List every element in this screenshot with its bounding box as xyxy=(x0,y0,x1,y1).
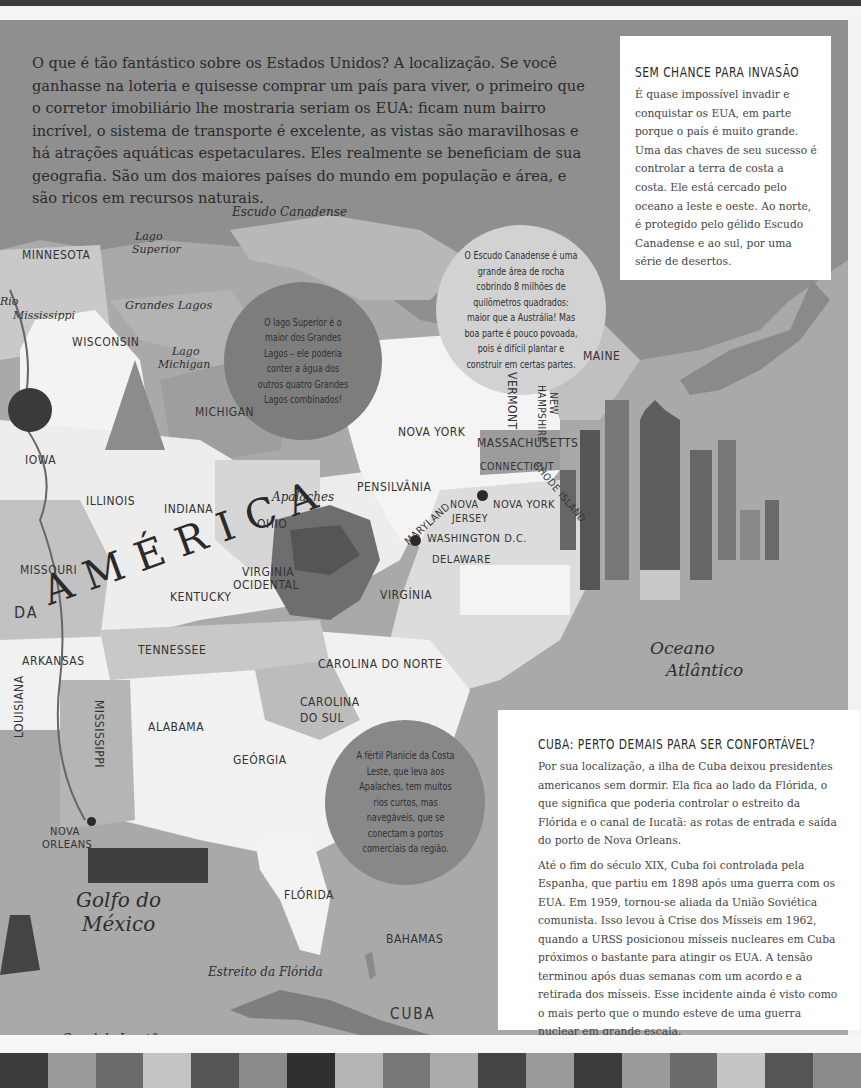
label-new-york-state: NOVA YORK xyxy=(398,425,465,439)
label-west-virginia-2: OCIDENTAL xyxy=(233,578,299,592)
coastal-plain-bubble: A fértil Planície da Costa Leste, que le… xyxy=(325,720,485,885)
label-alabama: ALABAMA xyxy=(148,720,204,734)
sidebox-cuba-paragraph-2: Até o fim do século XIX, Cuba foi contro… xyxy=(538,857,840,1042)
label-mississippi-river-2: Mississippi xyxy=(13,309,75,322)
label-new-orleans-1: NOVA xyxy=(50,825,80,838)
label-florida: FLÓRIDA xyxy=(284,888,334,902)
label-new-york-city: NOVA YORK xyxy=(493,498,555,511)
label-new-jersey-2: JERSEY xyxy=(452,512,488,524)
label-massachusetts: MASSACHUSETTS xyxy=(477,436,578,450)
label-new-orleans-2: ORLEANS xyxy=(42,838,92,851)
label-atlantic-2: Atlântico xyxy=(666,660,743,680)
label-lake-superior-1: Lago xyxy=(135,230,163,243)
sidebox-invasion: SEM CHANCE PARA INVASÃO É quase impossív… xyxy=(620,36,831,280)
label-new-hampshire-1: NEW xyxy=(548,392,559,415)
label-great-lakes: Grandes Lagos xyxy=(125,298,212,312)
label-pennsylvania: PENSILVÂNIA xyxy=(357,480,431,494)
city-dot-washington xyxy=(410,535,421,546)
label-west-virginia-1: VIRGÍNIA xyxy=(242,565,294,579)
label-da: DA xyxy=(14,603,39,622)
label-michigan: MICHIGAN xyxy=(195,405,254,419)
sidebox-cuba-title: CUBA: PERTO DEMAIS PARA SER CONFORTÁVEL? xyxy=(538,736,786,752)
label-maine: MAINE xyxy=(583,349,620,363)
label-south-carolina-2: DO SUL xyxy=(300,711,344,725)
label-delaware: DELAWARE xyxy=(432,553,491,566)
canadian-shield-bubble-text: O Escudo Canadense é uma grande área de … xyxy=(462,248,581,372)
label-minnesota: MINNESOTA xyxy=(22,248,90,262)
label-iowa: IOWA xyxy=(25,453,56,467)
sidebox-invasion-body: É quase impossível invadir e conquistar … xyxy=(635,86,817,272)
label-lake-superior-2: Superior xyxy=(132,243,181,256)
label-wisconsin: WISCONSIN xyxy=(72,335,139,349)
label-washington: WASHINGTON D.C. xyxy=(427,532,527,545)
label-south-carolina-1: CAROLINA xyxy=(300,695,360,709)
label-kentucky: KENTUCKY xyxy=(170,590,231,604)
label-illinois: ILLINOIS xyxy=(86,494,135,508)
coastal-plain-bubble-text: A fértil Planície da Costa Leste, que le… xyxy=(352,748,458,857)
bottom-flag-strip xyxy=(0,1053,861,1088)
label-north-carolina: CAROLINA DO NORTE xyxy=(318,657,442,671)
book-page: O lago Superior é o maior dos Grandes La… xyxy=(0,0,861,1088)
label-new-hampshire-2: HAMPSHIRE xyxy=(536,385,547,443)
label-new-jersey-1: NOVA xyxy=(450,498,479,510)
city-dot-new-york xyxy=(477,490,488,501)
sidebox-invasion-title: SEM CHANCE PARA INVASÃO xyxy=(635,64,784,80)
label-bahamas: BAHAMAS xyxy=(386,932,443,946)
label-mississippi-river-1: Rio xyxy=(0,295,18,308)
bottom-margin xyxy=(0,1035,861,1053)
label-georgia: GEÓRGIA xyxy=(233,753,287,767)
label-lake-michigan-1: Lago xyxy=(172,345,200,358)
label-tennessee: TENNESSEE xyxy=(138,643,206,657)
label-lake-michigan-2: Michigan xyxy=(158,358,210,371)
label-florida-strait: Estreito da Flórida xyxy=(208,965,323,979)
label-virginia: VIRGÍNIA xyxy=(380,588,432,602)
label-arkansas: ARKANSAS xyxy=(22,654,85,668)
label-mississippi: MISSISSIPPI xyxy=(92,700,106,768)
label-gulf-2: México xyxy=(82,912,155,936)
canadian-shield-bubble: O Escudo Canadense é uma grande área de … xyxy=(436,225,606,395)
label-atlantic-1: Oceano xyxy=(650,638,715,658)
label-louisiana: LOUISIANA xyxy=(12,675,26,738)
label-vermont: VERMONT xyxy=(505,372,519,430)
top-margin xyxy=(0,6,861,20)
city-dot-new-orleans xyxy=(87,817,96,826)
lake-superior-bubble-text: O lago Superior é o maior dos Grandes La… xyxy=(253,315,353,408)
label-cuba: CUBA xyxy=(390,1005,436,1023)
label-gulf-1: Golfo do xyxy=(76,888,161,912)
sidebox-cuba: CUBA: PERTO DEMAIS PARA SER CONFORTÁVEL?… xyxy=(498,710,860,1030)
sidebox-cuba-paragraph-1: Por sua localização, a ilha de Cuba deix… xyxy=(538,758,840,851)
intro-paragraph: O que é tão fantástico sobre os Estados … xyxy=(32,52,592,210)
